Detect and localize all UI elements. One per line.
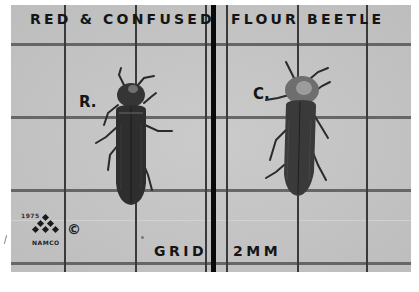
grid-line-v6 xyxy=(366,5,368,272)
grid-line-v4 xyxy=(226,5,228,272)
caption-left: RED & CONFUSED xyxy=(30,11,215,27)
confused-flour-beetle-image xyxy=(256,60,346,200)
speck xyxy=(141,236,144,239)
grid-label-word: GRID xyxy=(154,243,207,259)
logo-brand: NAMCO xyxy=(32,239,60,246)
copyright-icon: © xyxy=(67,221,81,237)
grid-line-v3 xyxy=(205,5,207,272)
grid-label-size: 2MM xyxy=(233,243,281,259)
namco-diamond-mark-icon xyxy=(31,214,61,240)
caption-right: FLOUR BEETLE xyxy=(231,11,384,27)
stray-mark xyxy=(4,235,7,244)
red-flour-beetle-image xyxy=(86,65,176,210)
center-divider-bar xyxy=(211,5,216,272)
namco-logo: 1975 NAMCO © xyxy=(21,208,91,248)
